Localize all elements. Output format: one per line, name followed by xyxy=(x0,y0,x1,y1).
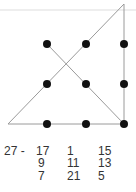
dot xyxy=(43,80,51,88)
magic-sum-label: 27 - xyxy=(4,145,25,157)
magic-square: 27 - 17 1 15 9 11 13 7 21 5 xyxy=(0,140,136,192)
dot xyxy=(82,120,90,128)
dot xyxy=(82,80,90,88)
dot xyxy=(43,40,51,48)
dot xyxy=(120,120,128,128)
dot xyxy=(82,40,90,48)
cell-r3c2: 21 xyxy=(67,170,80,182)
nine-dot-puzzle-diagram xyxy=(0,0,136,135)
cell-r2c1: 9 xyxy=(38,157,45,169)
dot xyxy=(43,120,51,128)
dot xyxy=(120,80,128,88)
cell-r3c1: 7 xyxy=(38,170,45,182)
cell-r3c3: 5 xyxy=(98,170,105,182)
dot xyxy=(120,40,128,48)
cell-r2c2: 11 xyxy=(67,157,79,169)
cell-r2c3: 13 xyxy=(98,157,111,169)
